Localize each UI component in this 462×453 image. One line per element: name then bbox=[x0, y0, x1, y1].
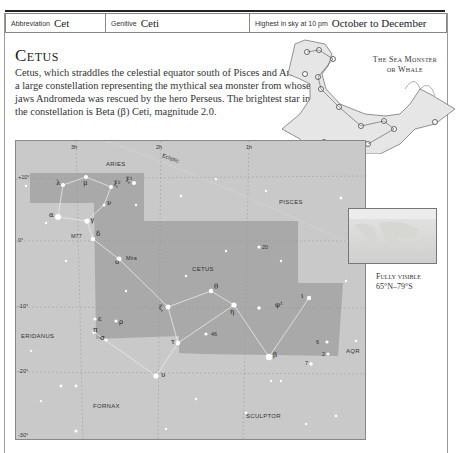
dec-label-minus10: -10° bbox=[18, 303, 28, 309]
ra-label-3h: 3h bbox=[71, 144, 77, 150]
star-delta: δ bbox=[96, 230, 100, 238]
fornax-label: FORNAX bbox=[93, 403, 120, 409]
highest-cell: Highest in sky at 10 pm October to Decem… bbox=[250, 14, 446, 32]
star-eta: η bbox=[230, 308, 234, 316]
visibility-line1: Fully visible bbox=[376, 272, 421, 282]
cetus-label: CETUS bbox=[192, 266, 214, 272]
star-7-label: 7 bbox=[305, 360, 308, 366]
star-map: 3h 2h 1h +10° 0° -10° -20° -30° Ecliptic… bbox=[15, 140, 366, 440]
dec-label-plus10: +10° bbox=[18, 174, 30, 180]
aqr-label: AQR bbox=[346, 348, 360, 354]
star-tau: τ bbox=[171, 338, 175, 346]
star-xi2: ξ² bbox=[114, 180, 121, 188]
dec-label-minus20: -20° bbox=[18, 368, 28, 374]
star-zeta: ζ bbox=[159, 304, 163, 312]
page-title: Cetus bbox=[15, 46, 59, 66]
visibility-info: Fully visible 65°N–79°S bbox=[376, 272, 421, 292]
info-bar: Abbreviation Cet Genitive Ceti Highest i… bbox=[5, 13, 447, 33]
star-omicron: ο bbox=[115, 258, 119, 266]
ra-label-2h: 2h bbox=[156, 144, 162, 150]
mira-label: Mira bbox=[126, 255, 137, 261]
top-rule bbox=[5, 10, 445, 12]
aries-label: ARIES bbox=[106, 161, 126, 167]
sea-monster-illustration bbox=[270, 34, 462, 154]
genitive-label: Genitive bbox=[111, 20, 137, 27]
star-alpha: α bbox=[49, 211, 54, 219]
star-sigma: σ bbox=[100, 334, 105, 342]
genitive-value: Ceti bbox=[141, 17, 159, 29]
star-xi1: ξ¹ bbox=[126, 176, 133, 184]
world-map-icon bbox=[349, 209, 436, 263]
star-phi1: φ¹ bbox=[275, 301, 283, 309]
highest-value: October to December bbox=[332, 17, 427, 29]
star-theta: θ bbox=[214, 283, 218, 291]
star-gamma: γ bbox=[90, 216, 94, 224]
star-mu: μ bbox=[83, 179, 88, 187]
m77-label: M77 bbox=[71, 233, 82, 239]
star-46-label: 46 bbox=[211, 331, 217, 337]
genitive-cell: Genitive Ceti bbox=[106, 14, 250, 32]
star-6-label: 6 bbox=[316, 339, 319, 345]
abbreviation-value: Cet bbox=[54, 17, 69, 29]
star-2-label: 2 bbox=[322, 351, 325, 357]
ra-label-1h: 1h bbox=[246, 144, 252, 150]
star-epsilon: ε bbox=[98, 315, 102, 323]
visibility-line2: 65°N–79°S bbox=[376, 282, 421, 292]
pisces-label: PISCES bbox=[279, 199, 303, 205]
star-nu: ν bbox=[107, 199, 111, 207]
figure-title-line1: The Sea Monster bbox=[350, 55, 460, 65]
figure-title: The Sea Monster or Whale bbox=[350, 55, 460, 75]
abbreviation-cell: Abbreviation Cet bbox=[6, 14, 106, 32]
eridanus-label: ERIDANUS bbox=[21, 333, 54, 339]
star-lambda: λ bbox=[56, 179, 60, 187]
star-iota: ι bbox=[301, 292, 304, 300]
star-upsilon: υ bbox=[161, 371, 165, 379]
figure-title-line2: or Whale bbox=[350, 65, 460, 75]
star-pi: π bbox=[93, 326, 98, 334]
star-beta: β bbox=[273, 351, 277, 359]
star-rho: ρ bbox=[119, 318, 123, 326]
dec-label-0: 0° bbox=[18, 237, 23, 243]
star-20-label: 20 bbox=[262, 244, 268, 250]
sculptor-label: SCULPTOR bbox=[246, 413, 281, 419]
visibility-world-map bbox=[348, 208, 437, 264]
abbreviation-label: Abbreviation bbox=[11, 20, 50, 27]
dec-label-minus30: -30° bbox=[18, 432, 28, 438]
star-map-graphics bbox=[16, 141, 366, 440]
highest-label: Highest in sky at 10 pm bbox=[255, 20, 328, 27]
